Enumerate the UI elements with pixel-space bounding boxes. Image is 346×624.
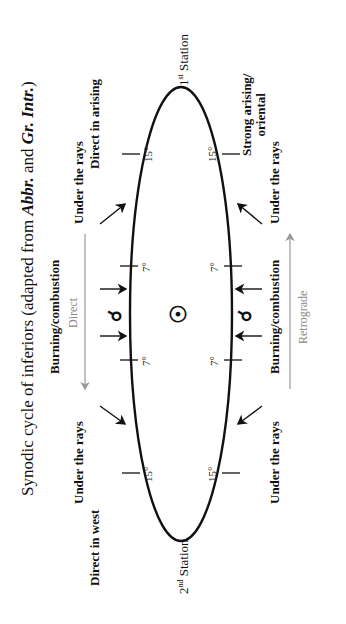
strong-arising-line1: Strong arising/ xyxy=(240,74,254,156)
retrograde-label: Retrograde xyxy=(296,291,310,344)
first-station-sup: st xyxy=(176,74,185,79)
under-rays-top-left-label: Under the rays xyxy=(72,421,86,504)
synodic-cycle-diagram: Synodic cycle of inferiors (adapted from… xyxy=(0,0,346,624)
under-rays-bottom-right-label: Under the rays xyxy=(268,141,282,224)
first-station-num: 1 xyxy=(176,80,191,87)
burning-bottom-label: Burning/combustion xyxy=(268,260,282,374)
deg-15-top-right: 15° xyxy=(142,147,154,162)
second-station-label: 2nd Station xyxy=(174,539,191,594)
deg-7-top-left: 7° xyxy=(140,356,152,366)
deg-15-bottom-right: 15° xyxy=(206,147,218,162)
deg-7-bottom-right: 7° xyxy=(208,262,220,272)
second-station-sup: nd xyxy=(176,580,185,588)
strong-arising-label: Strong arising/ oriental xyxy=(240,74,268,156)
deg-7-top-right: 7° xyxy=(140,262,152,272)
conjunction-bottom-icon: ☌ xyxy=(234,310,256,322)
deg-15-top-left: 15° xyxy=(142,467,154,482)
first-station-label: 1st Station xyxy=(174,34,191,86)
first-station-text: Station xyxy=(176,34,191,74)
direct-in-arising-label: Direct in arising xyxy=(88,79,102,169)
second-station-text: Station xyxy=(176,539,191,579)
under-rays-bottom-left-label: Under the rays xyxy=(268,421,282,504)
burning-top-label: Burning/combustion xyxy=(48,260,62,374)
second-station-num: 2 xyxy=(176,588,191,595)
deg-7-bottom-left: 7° xyxy=(208,356,220,366)
direct-label: Direct xyxy=(66,298,80,328)
under-rays-top-right-label: Under the rays xyxy=(72,141,86,224)
sun-icon: ☉ xyxy=(166,304,192,324)
deg-15-bottom-left: 15° xyxy=(206,467,218,482)
conjunction-top-icon: ☌ xyxy=(104,310,126,322)
strong-arising-line2: oriental xyxy=(254,74,268,156)
direct-in-west-label: Direct in west xyxy=(88,510,102,586)
